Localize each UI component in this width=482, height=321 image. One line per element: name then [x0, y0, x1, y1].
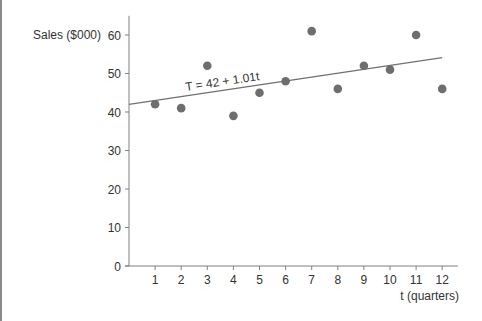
y-tick-label: 50 [108, 67, 122, 81]
axes: 0102030405060123456789101112 [108, 16, 458, 287]
y-axis-label: Sales ($000) [33, 28, 101, 42]
y-tick-label: 10 [108, 221, 122, 235]
x-tick-label: 10 [383, 273, 397, 287]
data-point [307, 27, 316, 36]
x-tick-label: 8 [334, 273, 341, 287]
x-tick-label: 2 [178, 273, 185, 287]
data-point [334, 85, 343, 94]
x-tick-label: 11 [410, 273, 423, 287]
x-tick-label: 1 [152, 273, 159, 287]
data-point [229, 112, 238, 121]
y-tick-label: 60 [108, 29, 122, 43]
data-point [151, 100, 160, 109]
x-tick-label: 7 [308, 273, 315, 287]
data-point [255, 88, 264, 97]
x-tick-label: 3 [204, 273, 211, 287]
y-tick-label: 20 [108, 183, 122, 197]
x-tick-label: 6 [282, 273, 289, 287]
x-tick-label: 9 [361, 273, 368, 287]
x-tick-label: 12 [436, 273, 450, 287]
data-point [203, 62, 212, 71]
x-tick-label: 5 [256, 273, 263, 287]
y-tick-label: 40 [108, 106, 122, 120]
y-tick-label: 30 [108, 144, 122, 158]
data-point [360, 62, 369, 71]
data-point [438, 85, 447, 94]
data-point [412, 31, 421, 40]
y-tick-label: 0 [114, 260, 121, 274]
data-point [281, 77, 290, 86]
x-tick-label: 4 [230, 273, 237, 287]
data-point [177, 104, 186, 113]
data-point [386, 65, 395, 74]
data-points [151, 27, 447, 120]
scatter-chart: 0102030405060123456789101112 Sales ($000… [0, 0, 482, 321]
x-axis-label: t (quarters) [400, 289, 459, 303]
